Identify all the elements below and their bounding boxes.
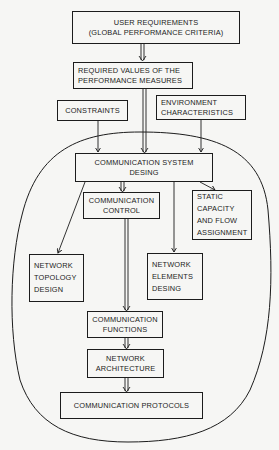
node-text: AND FLOW — [197, 215, 251, 227]
node-text: ARCHITECTURE — [96, 364, 156, 374]
double-arrow-architecture-to-protocols — [123, 378, 130, 392]
double-arrow-control-to-functions — [123, 219, 130, 311]
node-text: NETWORK — [34, 260, 83, 272]
node-text: ELEMENTS — [152, 271, 202, 283]
node-text: USER REQUIREMENTS — [114, 18, 199, 28]
node-network-topology-design: NETWORK TOPOLOGY DESIGN — [29, 254, 84, 302]
node-network-architecture: NETWORK ARCHITECTURE — [87, 349, 164, 378]
node-text: CONSTRAINTS — [65, 106, 120, 116]
node-text: PERFORMANCE MEASURES — [78, 76, 192, 86]
double-arrow-functions-to-architecture — [123, 338, 130, 349]
node-static-capacity-flow-assignment: STATIC CAPACITY AND FLOW ASSIGNMENT — [192, 190, 252, 240]
node-text: ENVIRONMENT — [161, 98, 245, 108]
double-arrow-required-to-design — [141, 89, 148, 153]
arrow-design-to-static — [200, 182, 215, 190]
node-environment-characteristics: ENVIRONMENT CHARACTERISTICS — [156, 95, 246, 120]
node-text: NETWORK — [106, 354, 145, 364]
node-communication-protocols: COMMUNICATION PROTOCOLS — [60, 392, 203, 419]
node-text: REQUIRED VALUES OF THE — [78, 66, 192, 76]
node-text: COMMUNICATION — [92, 315, 157, 325]
node-text: COMMUNICATION — [89, 196, 154, 206]
node-network-elements-design: NETWORK ELEMENTS DESING — [147, 253, 203, 300]
node-text: FUNCTIONS — [103, 325, 147, 335]
node-text: ASSIGNMENT — [197, 227, 251, 239]
double-arrow-design-to-control — [119, 182, 126, 192]
node-text: DESING — [129, 168, 158, 178]
node-text: COMMUNICATION SYSTEM — [95, 158, 194, 168]
double-arrow-user-to-required — [139, 44, 146, 61]
node-constraints: CONSTRAINTS — [57, 100, 128, 121]
node-communication-system-design: COMMUNICATION SYSTEM DESING — [75, 153, 213, 182]
node-text: CAPACITY — [197, 203, 251, 215]
node-text: TOPOLOGY — [34, 272, 83, 284]
node-text: DESIGN — [34, 284, 83, 296]
node-required-values: REQUIRED VALUES OF THE PERFORMANCE MEASU… — [73, 62, 193, 89]
node-communication-control: COMMUNICATION CONTROL — [83, 192, 160, 219]
node-text: CONTROL — [103, 206, 140, 216]
node-text: COMMUNICATION PROTOCOLS — [74, 401, 189, 411]
node-text: STATIC — [197, 191, 251, 203]
node-communication-functions: COMMUNICATION FUNCTIONS — [87, 311, 163, 338]
node-text: CHARACTERISTICS — [161, 108, 245, 118]
node-text: NETWORK — [152, 259, 202, 271]
arrow-design-to-topology — [58, 182, 85, 253]
node-text: DESING — [152, 283, 202, 295]
node-text: (GLOBAL PERFORMANCE CRITERIA) — [89, 28, 224, 38]
node-user-requirements: USER REQUIREMENTS (GLOBAL PERFORMANCE CR… — [72, 11, 240, 44]
